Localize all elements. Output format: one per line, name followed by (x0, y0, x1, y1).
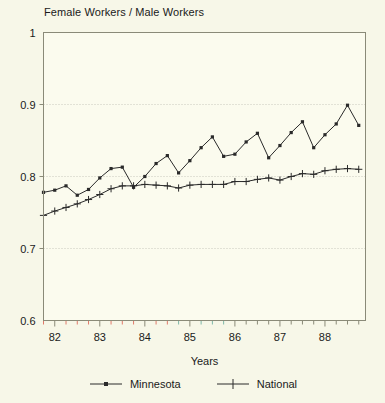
y-axis-tick-label: 0.9 (20, 99, 35, 111)
y-axis-tick-label: 0.7 (20, 243, 35, 255)
x-axis-tick-label: 87 (274, 331, 286, 343)
y-axis-tick-label: 1 (29, 27, 35, 39)
x-axis-tick-label: 88 (319, 331, 331, 343)
legend-label-minnesota: Minnesota (130, 378, 181, 390)
chart-figure: Female Workers / Male Workers 0.60.70.80… (0, 0, 385, 403)
x-axis-tick-label: 84 (139, 331, 151, 343)
x-axis-tick-label: 82 (49, 331, 61, 343)
y-axis-tick-label: 0.8 (20, 171, 35, 183)
legend-item-national: National (215, 378, 297, 390)
y-axis-tick-label: 0.6 (20, 315, 35, 327)
plot-area: 0.60.70.80.91 82838485868788 Years (0, 0, 385, 403)
legend-marker-dot-icon (88, 378, 124, 390)
x-axis-tick-label: 85 (184, 331, 196, 343)
x-axis-tick-label: 86 (229, 331, 241, 343)
x-axis-title: Years (191, 355, 219, 367)
chart-legend: Minnesota National (0, 378, 385, 390)
x-axis-ticks: 82838485868788 (44, 321, 359, 343)
x-axis-tick-label: 83 (94, 331, 106, 343)
legend-label-national: National (257, 378, 297, 390)
legend-item-minnesota: Minnesota (88, 378, 181, 390)
legend-marker-plus-icon (215, 378, 251, 390)
y-axis-ticks: 0.60.70.80.91 (20, 27, 43, 327)
